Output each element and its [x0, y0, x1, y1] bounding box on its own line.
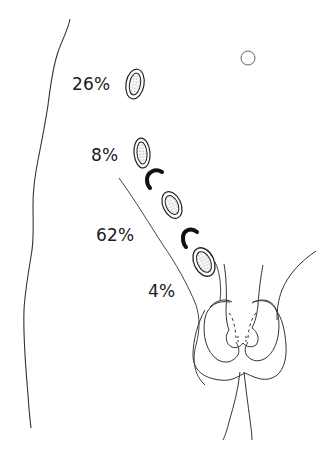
right-thigh-line [277, 251, 316, 320]
penis-shaft-left [224, 264, 229, 330]
percentage-label-position-2: 8% [91, 147, 118, 164]
testicular-descent-diagram [0, 0, 336, 463]
glans [226, 328, 258, 348]
perineum-left-line [223, 372, 240, 440]
testis-position-3 [158, 189, 186, 222]
small-circle-marker [241, 51, 255, 65]
testis-position-4 [189, 244, 220, 280]
percentage-label-position-1: 26% [72, 76, 110, 93]
testis-position-2 [133, 137, 152, 168]
dashed-line-right [248, 313, 256, 338]
testis-position-1 [124, 68, 147, 101]
dashed-line-left [229, 313, 236, 338]
inguinal-canal-inner-line [215, 262, 221, 300]
penis-shaft-right [252, 265, 263, 328]
arc-marker-2 [183, 230, 197, 247]
percentage-label-position-4: 4% [148, 283, 175, 300]
body-contour-line [24, 19, 70, 428]
perineum-right-line [244, 372, 252, 440]
scrotum-right-lobe [245, 301, 279, 361]
percentage-label-position-3: 62% [96, 227, 134, 244]
arc-marker-1 [147, 170, 162, 188]
scrotum-left-lobe [204, 302, 239, 362]
scrotum-left-arc [210, 300, 232, 307]
